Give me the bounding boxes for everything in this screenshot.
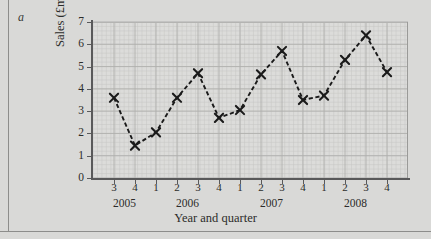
y-tick <box>87 111 91 112</box>
x-tick-label: 2 <box>336 182 354 193</box>
y-tick <box>87 67 91 68</box>
x-tick-label: 4 <box>378 182 396 193</box>
x-tick-label: 4 <box>294 182 312 193</box>
x-tick-label: 3 <box>357 182 375 193</box>
x-axis-year-label: 2007 <box>252 198 292 210</box>
x-tick-label: 3 <box>189 182 207 193</box>
x-tick-label: 3 <box>273 182 291 193</box>
x-tick-label: 4 <box>126 182 144 193</box>
x-axis-year-label: 2005 <box>105 198 145 210</box>
x-axis-year-label: 2008 <box>336 198 376 210</box>
y-tick <box>87 89 91 90</box>
x-tick-label: 2 <box>252 182 270 193</box>
y-tick <box>87 178 91 179</box>
x-tick-label: 2 <box>168 182 186 193</box>
x-tick-label: 3 <box>105 182 123 193</box>
x-tick-label: 1 <box>315 182 333 193</box>
y-tick <box>87 44 91 45</box>
x-axis-line <box>91 178 410 180</box>
y-tick <box>87 133 91 134</box>
y-axis-title-wrap: Sales (£m) <box>58 20 76 180</box>
y-tick <box>87 22 91 23</box>
y-axis-line <box>91 20 93 180</box>
y-tick <box>87 156 91 157</box>
figure-panel: a 01234567 34123412341234 20052006200720… <box>0 0 431 239</box>
x-tick-label: 1 <box>147 182 165 193</box>
x-tick-label: 4 <box>210 182 228 193</box>
x-axis-year-label: 2006 <box>168 198 208 210</box>
x-tick-label: 1 <box>231 182 249 193</box>
y-axis-title: Sales (£m) <box>54 0 67 80</box>
x-axis-title: Year and quarter <box>0 212 431 225</box>
